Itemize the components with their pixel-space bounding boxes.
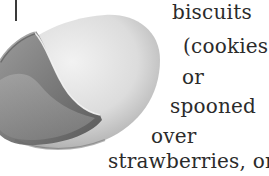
- text-line: strawberries, or: [108, 151, 269, 171]
- text-line: or: [182, 67, 204, 87]
- document-page: biscuits (cookies) or spooned over straw…: [0, 0, 269, 176]
- text-line: spooned: [170, 96, 256, 116]
- text-line: (cookies): [183, 36, 269, 56]
- text-line: biscuits: [172, 2, 252, 22]
- text-line: over: [151, 126, 197, 146]
